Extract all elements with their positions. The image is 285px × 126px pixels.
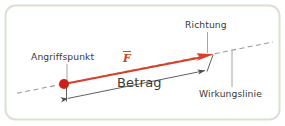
action-point-dot (59, 79, 69, 89)
label-vector-symbol-f: F (123, 52, 131, 65)
vector-overbar-icon (123, 51, 131, 52)
figure-container: Angriffspunkt Richtung Wirkungslinie Bet… (0, 0, 285, 126)
vector-symbol-text: F (123, 52, 131, 65)
label-betrag: Betrag (117, 75, 162, 90)
force-vector-diagram (0, 0, 285, 126)
label-wirkungslinie: Wirkungslinie (199, 88, 262, 99)
card-frame (6, 6, 280, 120)
label-richtung: Richtung (185, 19, 227, 30)
label-angriffspunkt: Angriffspunkt (31, 51, 94, 62)
